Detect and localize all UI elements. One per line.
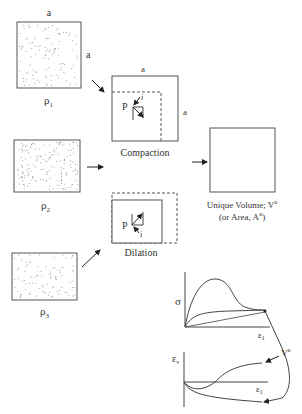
compaction-caption: Compaction <box>121 147 170 158</box>
compaction-point-label: P <box>122 101 128 112</box>
vu-arrow <box>266 356 279 362</box>
volumetric-strain-graph: εv ε1 <box>172 352 268 407</box>
side-a-top-label: a <box>47 7 52 18</box>
arrow-rho1-to-compaction <box>92 80 104 92</box>
sample-rho3: ρ3 <box>12 253 77 320</box>
graph2-x-label: ε1 <box>256 384 263 395</box>
side-a-right-label: a <box>86 49 91 60</box>
vu-label: Vu <box>281 347 291 358</box>
graph2-y-label: εv <box>172 353 179 365</box>
svg-text:a: a <box>183 107 187 117</box>
arrow-rho3-to-dilation <box>82 250 100 267</box>
rho1-label: ρ1 <box>44 94 54 109</box>
rho2-label: ρ2 <box>41 199 51 214</box>
unique-volume-label: Unique Volume; Vu <box>207 199 278 210</box>
graph1-x-label: ε1 <box>258 330 265 341</box>
compaction-box: a a P i Compaction <box>112 64 187 158</box>
stress-strain-graph: σ ε1 <box>175 272 270 341</box>
unique-area-label: (or Area, Au) <box>219 211 265 222</box>
graph1-y-label: σ <box>175 295 181 307</box>
sample-rho1: a a ρ1 <box>17 7 91 109</box>
soil-state-diagram: a a ρ1 ρ2 ρ3 a a P i Compaction <box>0 0 302 414</box>
svg-text:i: i <box>141 93 143 102</box>
dilation-box: P i Dilation <box>112 193 177 258</box>
dilation-point-label: P <box>122 220 128 231</box>
sample-rho2: ρ2 <box>14 140 80 214</box>
dilation-caption: Dilation <box>125 247 158 258</box>
rho3-label: ρ3 <box>40 305 50 320</box>
unique-volume-box: Unique Volume; Vu (or Area, Au) <box>207 128 278 222</box>
svg-text:a: a <box>141 64 145 74</box>
